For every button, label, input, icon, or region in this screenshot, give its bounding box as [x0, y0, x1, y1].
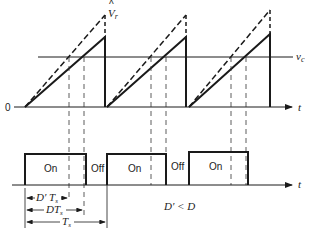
solid-ramp	[25, 37, 105, 107]
ramp-1	[25, 15, 105, 107]
pwm-diagram: 0 t vc Vr ^	[0, 0, 310, 238]
off-label-2: Off	[171, 161, 184, 172]
off-label-1: Off	[91, 163, 104, 174]
solid-ramp	[107, 37, 186, 107]
lower-plot: t On Off On Off On	[12, 152, 302, 190]
upper-plot: 0 t vc Vr ^	[5, 0, 305, 113]
control-voltage-label: vc	[296, 50, 305, 64]
on-label-2: On	[128, 163, 141, 174]
origin-label: 0	[5, 102, 11, 113]
peak-hat: ^	[109, 0, 114, 10]
ramp-2	[107, 15, 186, 107]
dashed-ramp	[107, 15, 186, 107]
lower-time-label: t	[298, 178, 302, 190]
solid-ramp	[189, 34, 270, 107]
dimensions: D′ Ts DTs Ts D′ < D	[25, 185, 195, 229]
dashed-ramp	[25, 15, 105, 107]
upper-time-label: t	[298, 101, 302, 113]
on-label-1: On	[44, 163, 57, 174]
on-label-3: On	[209, 161, 222, 172]
dashed-ramp	[189, 10, 270, 107]
relation-label: D′ < D	[163, 200, 195, 212]
ramp-3	[189, 10, 270, 107]
